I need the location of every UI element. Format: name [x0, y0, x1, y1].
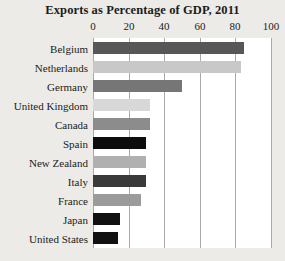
category-label: United States: [0, 233, 88, 245]
category-label: Germany: [0, 81, 88, 93]
category-label: France: [0, 195, 88, 207]
category-label: Spain: [0, 138, 88, 150]
category-label: Canada: [0, 119, 88, 131]
category-label: Japan: [0, 214, 88, 226]
chart-container: Exports as Percentage of GDP, 2011 02040…: [0, 0, 285, 261]
category-label: Italy: [0, 176, 88, 188]
category-label: New Zealand: [0, 157, 88, 169]
category-label: United Kingdom: [0, 100, 88, 112]
category-label: Netherlands: [0, 62, 88, 74]
category-labels: BelgiumNetherlandsGermanyUnited KingdomC…: [0, 0, 285, 261]
category-label: Belgium: [0, 43, 88, 55]
